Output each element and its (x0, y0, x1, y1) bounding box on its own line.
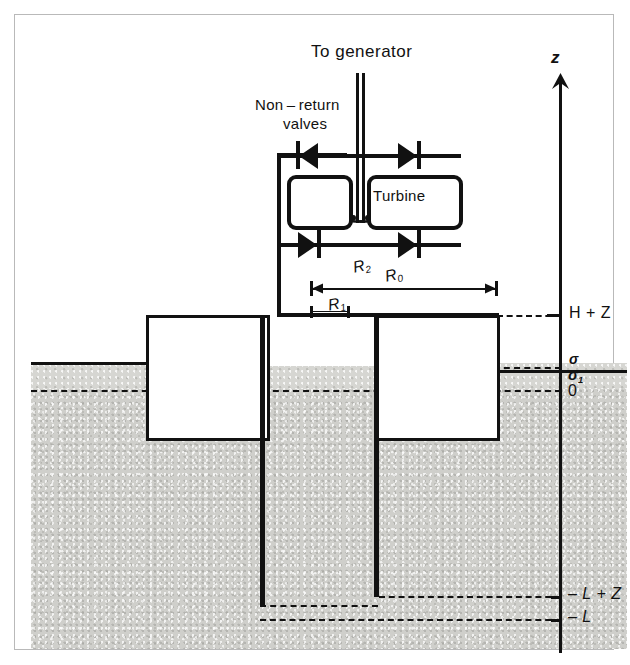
z-axis-label: z (551, 49, 560, 66)
level-minus-L-plus-Z-label: – L + Z (568, 586, 621, 602)
left-riser-pipe (277, 155, 281, 315)
caisson-right (376, 315, 500, 441)
check-valve-lower-right-triangle (398, 232, 417, 258)
caisson-left (146, 315, 270, 441)
check-valve-upper-right-triangle (398, 143, 417, 169)
R2-subscript: 2 (364, 263, 372, 275)
non-return-valves-label-line1: Non – return (255, 97, 340, 112)
dimension-arrow-R0-right-icon (484, 283, 496, 294)
level-sigma-label: σ (569, 352, 578, 366)
turbine-label: Turbine (373, 188, 425, 203)
R2-label: R2 (352, 256, 372, 275)
figure-border: z To generator Non – return valves Turbi… (14, 14, 614, 650)
R1-label: R1 (327, 295, 347, 314)
minus-L-plus-Z-dashed-left (260, 605, 378, 607)
turbine-shaft-line-right (362, 73, 365, 223)
shaft-wall-right (374, 315, 379, 597)
tick-minus-L (551, 619, 561, 622)
R2-letter: R (351, 257, 366, 276)
level-zero-label: 0 (568, 383, 577, 399)
sigma1-letter: σ (568, 366, 578, 383)
z-axis-line (559, 83, 562, 653)
R1-subscript: 1 (339, 302, 346, 314)
dimension-arrow-R0-left-icon (312, 283, 324, 294)
level-H-plus-Z-label: H + Z (569, 305, 611, 321)
R0-letter: R (383, 266, 398, 285)
tick-minus-L-plus-Z (551, 596, 561, 599)
turbine-shaft-line-left (356, 73, 359, 223)
water-surface-right (497, 370, 627, 373)
dimension-line-R0 (311, 288, 497, 290)
tick-H-plus-Z (547, 314, 561, 317)
level-sigma1-label: σ1 (568, 367, 583, 382)
R0-label: R0 (384, 265, 404, 284)
chamber-left (287, 175, 353, 230)
upper-valve-line-right-ext (425, 154, 461, 158)
check-valve-lower-left-seat (317, 230, 321, 258)
non-return-valves-label-line2: valves (283, 116, 327, 131)
deck-gap-white (267, 318, 379, 366)
R1-letter: R (327, 295, 341, 314)
sigma1-subscript: 1 (578, 375, 583, 385)
minus-L-plus-Z-dashed-right (379, 596, 561, 598)
water-surface-left (31, 362, 149, 365)
to-generator-label: To generator (311, 43, 412, 60)
R0-subscript: 0 (396, 272, 404, 284)
level-minus-L-label: – L (568, 609, 592, 625)
check-valve-upper-left-seat (296, 141, 300, 169)
check-valve-upper-right-seat (417, 141, 421, 169)
minus-L-dashed-line (260, 619, 561, 621)
figure-canvas: z To generator Non – return valves Turbi… (0, 0, 630, 665)
z-axis-arrow-icon (551, 73, 571, 91)
check-valve-lower-left-triangle (298, 232, 317, 258)
lower-valve-line-right-ext (421, 243, 461, 247)
shaft-wall-left (260, 315, 265, 605)
check-valve-upper-left-triangle (299, 143, 318, 169)
ground-fill (31, 389, 627, 649)
